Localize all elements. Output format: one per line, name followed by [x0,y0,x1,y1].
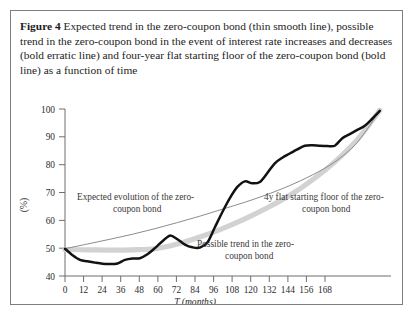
figure-caption: Figure 4 Expected trend in the zero-coup… [20,19,394,77]
figure-container: Figure 4 Expected trend in the zero-coup… [10,10,403,305]
annotation-expected-line1: Expected evolution of the zero- [77,192,194,202]
x-tick-label-156: 156 [299,285,313,295]
x-tick-label-0: 0 [63,285,68,295]
y-axis-ticks: 100 90 80 70 60 50 40 [41,105,65,282]
chart-plot-area: 100 90 80 70 60 50 40 (%) [11,87,402,304]
annotation-expected-line2: coupon bond [113,204,162,214]
annotation-possible-line1: Possible trend in the zero- [197,239,294,249]
x-tick-label-24: 24 [97,285,107,295]
annotation-possible: Possible trend in the zero- coupon bond [197,239,294,261]
annotation-possible-line2: coupon bond [225,251,274,261]
x-tick-label-12: 12 [79,285,89,295]
series-floor-line [65,110,380,250]
y-tick-label-80: 80 [46,160,56,170]
y-tick-label-70: 70 [46,188,56,198]
figure-caption-text: Expected trend in the zero-coupon bond (… [20,20,392,76]
x-tick-label-72: 72 [172,285,182,295]
figure-label: Figure 4 [20,20,61,32]
line-chart: 100 90 80 70 60 50 40 (%) [11,87,402,304]
y-tick-label-60: 60 [46,216,56,226]
x-tick-label-48: 48 [135,285,145,295]
y-axis-title: (%) [18,198,30,212]
annotation-floor-line2: coupon bond [302,204,351,214]
y-tick-label-40: 40 [46,272,56,282]
x-tick-label-108: 108 [225,285,239,295]
y-tick-label-50: 50 [46,244,56,254]
x-tick-label-96: 96 [209,285,219,295]
x-tick-label-144: 144 [281,285,295,295]
x-axis-title: T (months) [174,296,216,304]
x-tick-label-120: 120 [244,285,258,295]
annotation-expected: Expected evolution of the zero- coupon b… [77,192,194,214]
y-tick-label-100: 100 [41,105,55,115]
x-tick-label-36: 36 [116,285,126,295]
annotation-floor: 4y flat starting floor of the zero- coup… [264,192,384,214]
annotation-floor-line1: 4y flat starting floor of the zero- [264,192,384,202]
x-tick-label-84: 84 [190,285,200,295]
x-tick-label-132: 132 [262,285,276,295]
x-tick-label-60: 60 [153,285,163,295]
x-axis-ticks: 0 12 24 36 48 60 72 84 96 108 120 132 14… [63,276,333,295]
y-tick-label-90: 90 [46,132,56,142]
x-tick-label-168: 168 [318,285,332,295]
